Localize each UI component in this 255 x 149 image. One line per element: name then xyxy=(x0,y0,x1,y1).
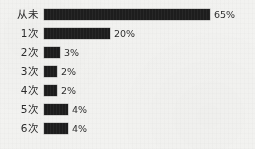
bar-chart: 从未 65% 1次 20% 2次 3% 3次 2% xyxy=(0,0,255,149)
category-label: 3次 xyxy=(0,66,38,77)
bar xyxy=(44,28,110,39)
bar-track: 2% xyxy=(38,81,255,100)
chart-row: 4次 2% xyxy=(0,81,255,100)
chart-row: 5次 4% xyxy=(0,100,255,119)
value-label: 4% xyxy=(72,105,87,115)
category-label: 5次 xyxy=(0,104,38,115)
category-label: 6次 xyxy=(0,123,38,134)
bar-track: 4% xyxy=(38,100,255,119)
bar xyxy=(44,9,210,20)
bar-track: 3% xyxy=(38,43,255,62)
value-label: 2% xyxy=(61,86,76,96)
bar xyxy=(44,85,57,96)
category-label: 从未 xyxy=(0,9,38,20)
value-label: 3% xyxy=(64,48,79,58)
chart-row: 6次 4% xyxy=(0,119,255,138)
chart-row: 从未 65% xyxy=(0,5,255,24)
value-label: 4% xyxy=(72,124,87,134)
bar-track: 20% xyxy=(38,24,255,43)
bar-track: 4% xyxy=(38,119,255,138)
value-label: 2% xyxy=(61,67,76,77)
bar xyxy=(44,123,68,134)
bar xyxy=(44,47,60,58)
bar xyxy=(44,66,57,77)
category-label: 2次 xyxy=(0,47,38,58)
chart-row: 3次 2% xyxy=(0,62,255,81)
value-label: 65% xyxy=(214,10,235,20)
value-label: 20% xyxy=(114,29,135,39)
bar xyxy=(44,104,68,115)
category-label: 1次 xyxy=(0,28,38,39)
chart-plot-area: 从未 65% 1次 20% 2次 3% 3次 2% xyxy=(0,5,255,138)
bar-track: 2% xyxy=(38,62,255,81)
bar-track: 65% xyxy=(38,5,255,24)
chart-row: 1次 20% xyxy=(0,24,255,43)
category-label: 4次 xyxy=(0,85,38,96)
chart-row: 2次 3% xyxy=(0,43,255,62)
